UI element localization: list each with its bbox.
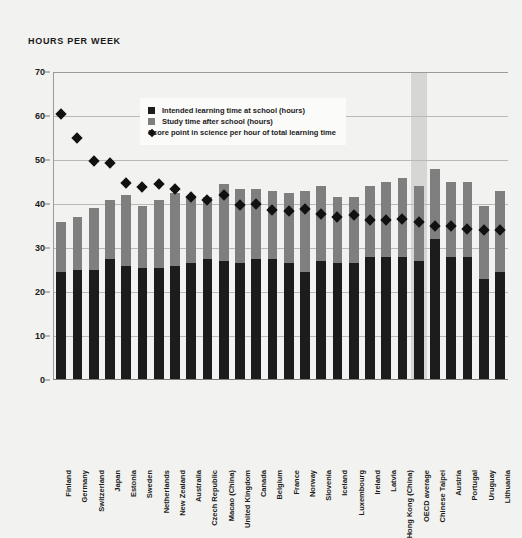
bar-column[interactable]	[170, 193, 180, 380]
bar-segment-study-after-school	[446, 182, 456, 257]
x-axis-tick-label: Latvia	[389, 470, 398, 492]
x-axis-labels: FinlandGermanySwitzerlandJapanEstoniaSwe…	[53, 382, 508, 474]
x-axis-tick-label: Iceland	[340, 470, 349, 496]
y-axis-tick-mark	[45, 204, 50, 205]
bar-segment-intended-learning	[463, 257, 473, 380]
x-axis-tick-label: Japan	[113, 470, 122, 492]
y-axis-tick-label: 60	[5, 111, 45, 121]
x-axis-tick-label: Slovenia	[324, 470, 333, 501]
x-axis-tick-label: Czech Republic	[210, 470, 219, 526]
bar-segment-study-after-school	[203, 197, 213, 259]
bar-column[interactable]	[154, 200, 164, 380]
bar-column[interactable]	[495, 191, 505, 380]
legend-item: Score point in science per hour of total…	[148, 128, 336, 137]
bar-column[interactable]	[251, 189, 261, 380]
bar-segment-study-after-school	[56, 222, 66, 273]
bar-segment-intended-learning	[316, 261, 326, 380]
y-axis-tick-mark	[45, 72, 50, 73]
y-axis-tick-mark	[45, 116, 50, 117]
chart-legend: Intended learning time at school (hours)…	[140, 98, 346, 145]
x-axis-tick-label: Switzerland	[97, 470, 106, 512]
x-axis-tick-label: Belgium	[275, 470, 284, 500]
bar-segment-study-after-school	[333, 197, 343, 263]
legend-item-label: Score point in science per hour of total…	[148, 128, 336, 137]
bar-segment-intended-learning	[284, 263, 294, 380]
x-axis-tick-label: United Kingdom	[243, 470, 252, 528]
y-axis-tick-mark	[45, 248, 50, 249]
x-axis-baseline	[53, 379, 508, 380]
bar-column[interactable]	[381, 182, 391, 380]
bar-segment-intended-learning	[89, 270, 99, 380]
bar-column[interactable]	[138, 206, 148, 380]
bar-column[interactable]	[105, 200, 115, 380]
bar-segment-intended-learning	[138, 268, 148, 380]
bar-segment-study-after-school	[316, 186, 326, 261]
y-axis-labels: 010203040506070	[0, 72, 45, 380]
x-axis-tick-label: Uruguay	[487, 470, 496, 500]
bar-column[interactable]	[203, 197, 213, 380]
bar-segment-intended-learning	[121, 266, 131, 380]
x-axis-tick-label: Austria	[454, 470, 463, 496]
x-axis-tick-label: Netherlands	[162, 470, 171, 513]
bar-column[interactable]	[349, 197, 359, 380]
bar-segment-intended-learning	[349, 263, 359, 380]
bar-segment-intended-learning	[154, 268, 164, 380]
bar-segment-intended-learning	[268, 259, 278, 380]
x-axis-tick-label: New Zealand	[178, 470, 187, 516]
bar-segment-intended-learning	[398, 257, 408, 380]
x-axis-tick-label: OECD average	[422, 470, 431, 522]
x-axis-tick-label: Luxembourg	[357, 470, 366, 515]
x-axis-tick-label: Chinese Taipei	[438, 470, 447, 522]
bar-column[interactable]	[121, 195, 131, 380]
bar-segment-intended-learning	[186, 263, 196, 380]
y-axis-tick-label: 70	[5, 67, 45, 77]
bar-segment-intended-learning	[235, 263, 245, 380]
x-axis-tick-label: Norway	[308, 470, 317, 497]
bar-segment-intended-learning	[446, 257, 456, 380]
bar-column[interactable]	[268, 191, 278, 380]
bar-column[interactable]	[333, 197, 343, 380]
bar-column[interactable]	[284, 193, 294, 380]
bar-column[interactable]	[56, 222, 66, 380]
bar-column[interactable]	[463, 182, 473, 380]
x-axis-tick-label: France	[292, 470, 301, 495]
bar-column[interactable]	[398, 178, 408, 380]
bar-segment-study-after-school	[154, 200, 164, 268]
y-axis-tick-label: 40	[5, 199, 45, 209]
bar-segment-intended-learning	[381, 257, 391, 380]
y-axis-tick-mark	[45, 160, 50, 161]
bar-column[interactable]	[186, 197, 196, 380]
bar-segment-intended-learning	[219, 261, 229, 380]
y-axis-tick-mark	[45, 292, 50, 293]
bar-segment-intended-learning	[479, 279, 489, 380]
bar-segment-intended-learning	[333, 263, 343, 380]
x-axis-tick-label: Ireland	[373, 470, 382, 495]
bar-column[interactable]	[89, 208, 99, 380]
bar-segment-study-after-school	[138, 206, 148, 268]
x-axis-tick-label: Australia	[194, 470, 203, 502]
x-axis-tick-label: Sweden	[145, 470, 154, 498]
bar-segment-intended-learning	[170, 266, 180, 380]
bar-segment-intended-learning	[365, 257, 375, 380]
x-axis-tick-label: Finland	[64, 470, 73, 497]
bar-segment-study-after-school	[105, 200, 115, 259]
bar-column[interactable]	[73, 217, 83, 380]
bar-segment-intended-learning	[105, 259, 115, 380]
x-axis-tick-label: Estonia	[129, 470, 138, 497]
y-axis-tick-label: 0	[5, 375, 45, 385]
y-axis-tick-label: 50	[5, 155, 45, 165]
bar-column[interactable]	[235, 189, 245, 380]
bar-segment-intended-learning	[251, 259, 261, 380]
bar-column[interactable]	[300, 191, 310, 380]
bar-segment-intended-learning	[203, 259, 213, 380]
bar-column[interactable]	[219, 184, 229, 380]
bar-segment-study-after-school	[479, 206, 489, 279]
x-axis-tick-label: Germany	[80, 470, 89, 503]
bar-segment-intended-learning	[414, 261, 424, 380]
legend-item: Study time after school (hours)	[148, 117, 336, 126]
bar-segment-intended-learning	[300, 272, 310, 380]
bar-column[interactable]	[430, 169, 440, 380]
page-title: HOURS PER WEEK	[28, 36, 121, 46]
bar-column[interactable]	[446, 182, 456, 380]
x-axis-tick-label: Hong Kong (China)	[405, 470, 414, 538]
